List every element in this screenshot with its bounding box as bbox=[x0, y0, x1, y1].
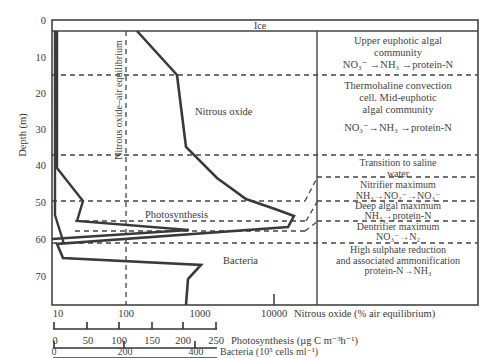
zone-denitrifier: Dentrifier maximum NO₃⁻→N₂ bbox=[318, 222, 478, 242]
zone-nitrifier: Nitrifier maximum NH₃→NO₂⁻→NO₃⁻ bbox=[318, 179, 478, 201]
zone-thermohaline: Thermohaline convection cell. Mid-euphot… bbox=[318, 80, 478, 134]
zone-deep-algal: Deep algal maximum NH₃→protein-N bbox=[318, 201, 478, 221]
zone-sulphate-reduction: High sulphate reduction and associated a… bbox=[318, 245, 478, 277]
zone-transition: Transition to saline water bbox=[318, 157, 478, 179]
zone-upper-euphotic: Upper euphotic algal community NO₃⁻ →NH₃… bbox=[318, 35, 478, 71]
